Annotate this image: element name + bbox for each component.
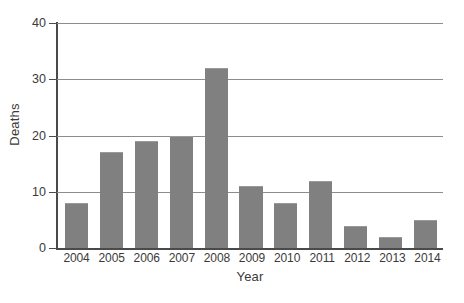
y-axis-tick-label: 40 <box>2 16 46 30</box>
bar-slot <box>303 23 338 248</box>
y-axis-tick-label: 30 <box>2 72 46 86</box>
y-axis-tick <box>49 79 56 80</box>
bar-slot <box>373 23 408 248</box>
bar-slot <box>234 23 269 248</box>
x-axis-tick-label: 2010 <box>270 251 305 265</box>
x-axis-tick-label: 2006 <box>129 251 164 265</box>
y-axis-tick <box>49 192 56 193</box>
x-axis-tick-label: 2008 <box>199 251 234 265</box>
x-axis-tick-label: 2005 <box>94 251 129 265</box>
y-axis-tick-labels: 010203040 <box>0 0 46 303</box>
y-axis-tick-label: 20 <box>2 129 46 143</box>
x-axis-title-text: Year <box>236 269 263 284</box>
y-axis-tick <box>49 23 56 24</box>
bar-slot <box>338 23 373 248</box>
bar-2013[interactable] <box>379 237 402 248</box>
bar-2014[interactable] <box>414 220 437 248</box>
bar-2009[interactable] <box>239 186 262 248</box>
bar-slot <box>268 23 303 248</box>
x-axis-title: Year <box>57 269 443 284</box>
bar-2007[interactable] <box>170 136 193 249</box>
bar-slot <box>59 23 94 248</box>
x-axis-tick-label: 2004 <box>59 251 94 265</box>
y-axis-tick-label: 0 <box>2 241 46 255</box>
bar-2010[interactable] <box>274 203 297 248</box>
bar-2008[interactable] <box>205 68 228 248</box>
bar-2011[interactable] <box>309 181 332 249</box>
bar-slot <box>129 23 164 248</box>
y-axis-tick-label: 10 <box>2 185 46 199</box>
bar-2006[interactable] <box>135 141 158 248</box>
bar-series <box>59 23 443 248</box>
bar-slot <box>408 23 443 248</box>
bar-chart: Deaths 010203040 20042005200620072008200… <box>0 0 464 303</box>
axis-baseline <box>57 248 443 250</box>
x-axis-tick-label: 2009 <box>234 251 269 265</box>
bar-slot <box>94 23 129 248</box>
x-axis-tick-label: 2012 <box>340 251 375 265</box>
bar-2005[interactable] <box>100 152 123 248</box>
bar-slot <box>199 23 234 248</box>
x-axis-tick-label: 2013 <box>375 251 410 265</box>
bar-2004[interactable] <box>65 203 88 248</box>
y-axis-tick <box>49 248 56 249</box>
x-axis-tick-label: 2007 <box>164 251 199 265</box>
x-axis-tick-label: 2014 <box>410 251 445 265</box>
x-axis-tick-label: 2011 <box>305 251 340 265</box>
x-axis-tick-labels: 2004200520062007200820092010201120122013… <box>59 251 445 265</box>
plot-area <box>57 23 443 248</box>
y-axis-tick <box>49 136 56 137</box>
bar-slot <box>164 23 199 248</box>
bar-2012[interactable] <box>344 226 367 249</box>
